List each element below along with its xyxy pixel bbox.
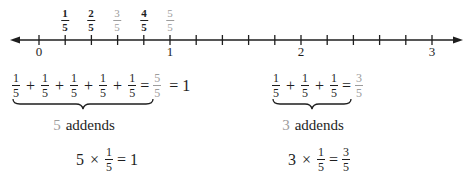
denominator: 5 [317, 159, 325, 173]
tick-label-1: 1 [167, 44, 174, 60]
denominator: 5 [301, 85, 309, 99]
factor: 5 [76, 151, 84, 169]
right-multiplication-equation: 3 × 15 = 35 [288, 146, 350, 173]
addend-count: 5 [53, 117, 61, 133]
denominator: 5 [87, 20, 95, 33]
numerator: 1 [128, 72, 136, 85]
fraction-label-5-5: 5 5 [166, 8, 174, 33]
equals-sign: = [117, 151, 126, 169]
right-addition-equation: 15 + 15 + 15 = 35 [272, 72, 363, 99]
numerator: 1 [272, 72, 280, 85]
plus-sign: + [84, 77, 93, 95]
numerator: 1 [317, 146, 325, 159]
product-result: 1 [130, 151, 138, 169]
numerator: 4 [140, 8, 148, 20]
equals-sign: = [342, 77, 351, 95]
numerator: 3 [355, 72, 363, 85]
sum-result: 1 [182, 77, 190, 95]
fraction-label-3-5: 3 5 [113, 8, 121, 33]
addend-fraction: 15 [41, 72, 49, 99]
addend-fraction: 15 [301, 72, 309, 99]
denominator: 5 [330, 85, 338, 99]
times-sign: × [302, 151, 311, 169]
right-addends-caption: 3addends [282, 117, 344, 134]
equals-sign: = [140, 77, 149, 95]
numerator: 2 [87, 8, 95, 20]
denominator: 5 [153, 85, 161, 99]
denominator: 5 [105, 159, 113, 173]
plus-sign: + [113, 77, 122, 95]
numerator: 3 [342, 146, 350, 159]
sum-fraction: 55 [153, 72, 161, 99]
left-addition-equation: 15 + 15 + 15 + 15 + 15 = 55 = 1 [12, 72, 190, 99]
addend-count: 3 [282, 117, 290, 133]
addends-word: addends [66, 117, 115, 133]
product-result-fraction: 35 [342, 146, 350, 173]
numerator: 1 [61, 8, 69, 20]
addend-fraction: 15 [330, 72, 338, 99]
times-sign: × [90, 151, 99, 169]
numerator: 1 [41, 72, 49, 85]
denominator: 5 [12, 85, 20, 99]
tick-label-0: 0 [36, 44, 43, 60]
right-underbrace [272, 98, 352, 110]
plus-sign: + [286, 77, 295, 95]
product-fraction: 15 [317, 146, 325, 173]
factor: 3 [288, 151, 296, 169]
product-fraction: 15 [105, 146, 113, 173]
denominator: 5 [342, 159, 350, 173]
numerator: 3 [113, 8, 121, 20]
numerator: 1 [70, 72, 78, 85]
right-arrow-icon [453, 37, 463, 44]
fraction-label-4-5: 4 5 [140, 8, 148, 33]
fraction-label-2-5: 2 5 [87, 8, 95, 33]
denominator: 5 [70, 85, 78, 99]
denominator: 5 [272, 85, 280, 99]
denominator: 5 [113, 20, 121, 33]
denominator: 5 [166, 20, 174, 33]
numerator: 1 [301, 72, 309, 85]
denominator: 5 [140, 20, 148, 33]
number-line [0, 0, 472, 60]
tick-label-3: 3 [429, 44, 436, 60]
denominator: 5 [99, 85, 107, 99]
denominator: 5 [41, 85, 49, 99]
fraction-label-1-5: 1 5 [61, 8, 69, 33]
plus-sign: + [55, 77, 64, 95]
denominator: 5 [128, 85, 136, 99]
equals-sign: = [329, 151, 338, 169]
numerator: 1 [105, 146, 113, 159]
denominator: 5 [355, 85, 363, 99]
numerator: 1 [330, 72, 338, 85]
left-arrow-icon [10, 37, 20, 44]
plus-sign: + [315, 77, 324, 95]
tick-label-2: 2 [298, 44, 305, 60]
numerator: 5 [153, 72, 161, 85]
addend-fraction: 15 [12, 72, 20, 99]
addend-fraction: 15 [128, 72, 136, 99]
numerator: 1 [12, 72, 20, 85]
addends-word: addends [295, 117, 344, 133]
sum-fraction: 35 [355, 72, 363, 99]
left-underbrace [12, 98, 154, 110]
denominator: 5 [61, 20, 69, 33]
equals-sign: = [169, 77, 178, 95]
addend-fraction: 15 [99, 72, 107, 99]
left-multiplication-equation: 5 × 15 = 1 [76, 146, 138, 173]
addend-fraction: 15 [272, 72, 280, 99]
plus-sign: + [26, 77, 35, 95]
left-addends-caption: 5addends [53, 117, 115, 134]
addend-fraction: 15 [70, 72, 78, 99]
numerator: 1 [99, 72, 107, 85]
numerator: 5 [166, 8, 174, 20]
